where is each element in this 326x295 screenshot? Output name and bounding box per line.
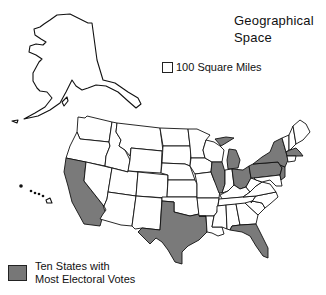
state-wyoming bbox=[128, 148, 162, 173]
scale-square-icon bbox=[162, 62, 173, 73]
legend-line-2: Most Electoral Votes bbox=[35, 273, 135, 286]
legend-text: Ten States with Most Electoral Votes bbox=[35, 260, 135, 286]
state-maine bbox=[293, 120, 310, 144]
state-florida bbox=[230, 224, 268, 258]
title-line-1: Geographical bbox=[234, 12, 314, 29]
map-title: Geographical Space bbox=[234, 12, 314, 46]
state-colorado bbox=[136, 172, 168, 198]
state-hawaii bbox=[19, 184, 52, 203]
legend-swatch-icon bbox=[8, 265, 27, 281]
scale-key: 100 Square Miles bbox=[162, 61, 262, 73]
state-north-dakota bbox=[160, 128, 190, 146]
legend: Ten States with Most Electoral Votes bbox=[8, 260, 135, 286]
alaska-aleutian bbox=[12, 120, 18, 123]
state-connecticut bbox=[287, 156, 296, 162]
state-michigan-lower bbox=[227, 149, 240, 169]
title-line-2: Space bbox=[234, 29, 314, 46]
state-utah bbox=[108, 168, 138, 196]
legend-line-1: Ten States with bbox=[35, 260, 135, 273]
state-alaska bbox=[24, 14, 141, 119]
state-kansas bbox=[167, 180, 197, 197]
state-new-mexico bbox=[132, 196, 162, 230]
scale-label: 100 Square Miles bbox=[176, 61, 262, 73]
state-washington bbox=[77, 116, 112, 142]
state-new-york bbox=[253, 138, 288, 167]
